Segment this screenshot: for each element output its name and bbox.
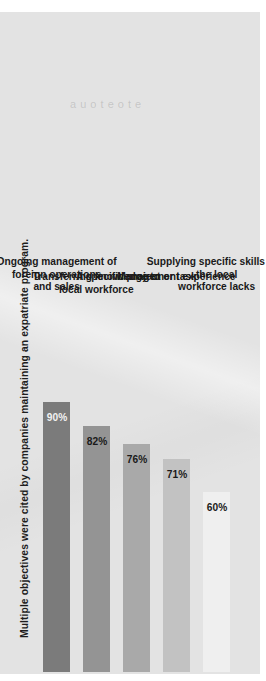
scanned-chart-page: a u o t e o t e Multiple objectives were… [0, 0, 266, 681]
bar-value-label-3: 76% [126, 454, 146, 465]
bar-row: 76% [123, 372, 150, 672]
category-label-5: Supplying specific skills that the local… [141, 256, 266, 281]
bar-row: 60% [203, 372, 230, 672]
plot-area: 90%82%76%71%60% [39, 10, 239, 672]
bar-value-label-1: 90% [46, 412, 66, 423]
rotated-chart-stage: Multiple objectives were cited by compan… [3, 10, 263, 672]
bar-row: 90% [43, 372, 70, 672]
bar-4[interactable] [163, 459, 190, 672]
bar-row: 71% [163, 372, 190, 672]
bar-value-label-4: 71% [166, 469, 186, 480]
bar-1[interactable] [43, 402, 70, 672]
bar-5[interactable] [203, 492, 230, 672]
bar-chart: Multiple objectives were cited by compan… [3, 10, 263, 672]
bar-2[interactable] [83, 426, 110, 672]
bar-value-label-2: 82% [86, 436, 106, 447]
bar-row: 82% [83, 372, 110, 672]
bar-value-label-5: 60% [206, 502, 226, 513]
chart-title: Multiple objectives were cited by compan… [19, 38, 30, 638]
bar-3[interactable] [123, 444, 150, 672]
